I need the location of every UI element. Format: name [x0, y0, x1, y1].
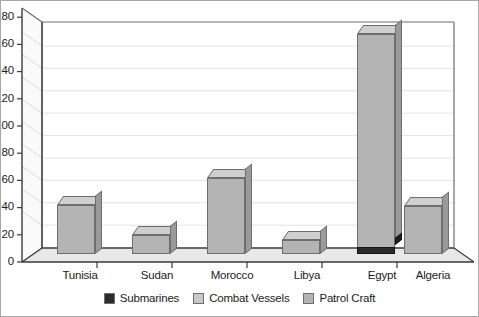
- y-tick-80: 80: [0, 146, 14, 158]
- legend-item-patrol-craft: Patrol Craft: [303, 292, 375, 304]
- legend-swatch-combat-vessels-icon: [193, 293, 204, 304]
- x-label-algeria: Algeria: [388, 269, 478, 281]
- y-tick-100: 100: [0, 119, 14, 131]
- bar-side-face: [442, 192, 449, 254]
- legend-item-submarines: Submarines: [104, 292, 179, 304]
- y-tick-120: 120: [0, 92, 14, 104]
- bar-front-face: [357, 34, 395, 254]
- bar-front-face: [57, 205, 95, 254]
- bar-tunisia: [57, 196, 95, 254]
- legend-item-combat-vessels: Combat Vessels: [193, 292, 289, 304]
- bar-sudan: [132, 226, 170, 254]
- legend-label-combat-vessels: Combat Vessels: [209, 292, 289, 304]
- bar-algeria: [404, 197, 442, 254]
- legend-label-patrol-craft: Patrol Craft: [319, 292, 375, 304]
- bar-side-face: [395, 20, 402, 245]
- y-tick-0: 0: [0, 255, 14, 267]
- bar-side-face: [170, 221, 177, 254]
- bar-side-face: [245, 164, 252, 254]
- bar-front-face: [404, 206, 442, 254]
- bar-front-face: [207, 178, 245, 254]
- legend-swatch-patrol-craft-icon: [303, 293, 314, 304]
- chart-legend: Submarines Combat Vessels Patrol Craft: [0, 292, 479, 304]
- chart-root: 180 160 140 120 100 80 60 40 20 0: [0, 0, 479, 317]
- bar-libya: [282, 231, 320, 254]
- bar-front-face: [132, 235, 170, 254]
- y-tick-40: 40: [0, 200, 14, 212]
- bar-front-face-submarines: [357, 247, 395, 254]
- y-tick-140: 140: [0, 64, 14, 76]
- bar-morocco: [207, 169, 245, 254]
- bar-front-face: [282, 240, 320, 254]
- y-tick-60: 60: [0, 173, 14, 185]
- y-tick-160: 160: [0, 37, 14, 49]
- legend-swatch-submarines-icon: [104, 293, 115, 304]
- y-tick-180: 180: [0, 10, 14, 22]
- legend-label-submarines: Submarines: [120, 292, 179, 304]
- bar-egypt: [357, 25, 395, 254]
- bar-side-face: [95, 191, 102, 254]
- y-tick-20: 20: [0, 228, 14, 240]
